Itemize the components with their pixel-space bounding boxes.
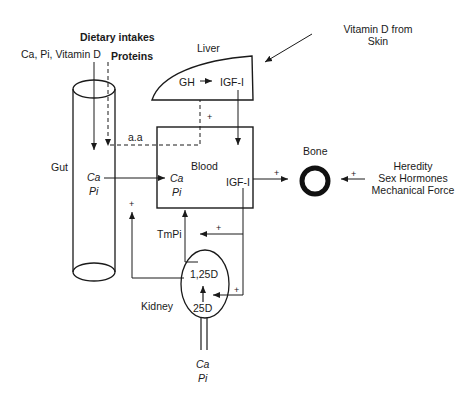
igf1-liver-label: IGF-I — [220, 76, 244, 88]
ca-pi-vitd-label: Ca, Pi, Vitamin D — [21, 48, 101, 60]
skin-arrow — [265, 34, 312, 62]
gut-label: Gut — [51, 161, 68, 173]
kidney-gut-arrow — [132, 212, 184, 278]
urine-pi-label: Pi — [198, 372, 207, 384]
plus-sign: + — [207, 113, 212, 122]
vitd-skin-label: Vitamin D from Skin — [318, 23, 438, 47]
25d-label: 25D — [193, 302, 212, 314]
125d-label: 1,25D — [190, 268, 218, 280]
dietary-intakes-label: Dietary intakes — [80, 31, 155, 43]
kidney-label: Kidney — [141, 300, 173, 312]
blood-pi-label: Pi — [172, 186, 181, 198]
blood-ca-label: Ca — [170, 172, 183, 184]
gut-pi-label: Pi — [89, 185, 98, 197]
gut-ca-label: Ca — [87, 171, 100, 183]
urine-ca-label: Ca — [196, 358, 209, 370]
plus-sign: + — [274, 169, 279, 178]
plus-sign: + — [234, 286, 239, 295]
bone-ring — [302, 168, 328, 194]
plus-sign: + — [216, 224, 221, 233]
bone-factors-label: Heredity Sex Hormones Mechanical Force — [358, 160, 466, 196]
blood-label: Blood — [191, 160, 218, 172]
aa-label: a.a — [128, 131, 143, 143]
liver-label: Liver — [197, 42, 220, 54]
proteins-label: Proteins — [111, 50, 153, 62]
igf1-blood-label: IGF-I — [226, 176, 250, 188]
bone-label: Bone — [303, 145, 328, 157]
tmpi-label: TmPi — [157, 228, 182, 240]
plus-sign: + — [129, 200, 134, 209]
diagram-canvas — [0, 0, 466, 404]
plus-sign: + — [351, 170, 356, 179]
gh-label: GH — [179, 76, 195, 88]
